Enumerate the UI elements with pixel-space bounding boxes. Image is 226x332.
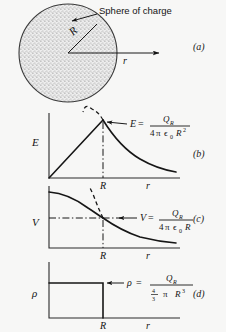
figure-uniformly-charged-sphere: Sphere of charge R r (a) E R r E = Q R	[0, 0, 226, 332]
panel-c-x-tick-R: R	[99, 250, 106, 261]
panel-b-formula-den-R: R	[175, 128, 182, 138]
panel-d-formula-equals: =	[136, 277, 142, 288]
panel-c-formula-numerator: Q	[172, 208, 179, 218]
panel-d-formula-numerator-sub: R	[172, 279, 177, 285]
sphere-of-charge-label: Sphere of charge	[99, 5, 172, 16]
panel-c-formula-den-pi: π	[165, 222, 170, 232]
panel-tag-a: (a)	[193, 41, 205, 53]
panel-c-formula-numerator-sub: R	[178, 214, 183, 220]
panel-c-formula-equals: =	[148, 212, 154, 223]
panel-b-x-axis-label: r	[146, 180, 150, 191]
panel-b-formula-den-epsilon-sub: 0	[170, 134, 173, 140]
panel-d-formula-den-R: R	[174, 289, 181, 299]
panel-d-formula-den-frac-den: 3	[152, 296, 155, 302]
distance-label-r: r	[123, 55, 127, 66]
panel-d-y-axis-label: ρ	[31, 287, 37, 299]
panel-c-formula-den-R: R	[184, 222, 191, 232]
panel-d-formula-den-R-exponent: 3	[182, 288, 185, 294]
panel-d-formula-den-frac-num: 4	[152, 288, 155, 294]
panel-tag-b: (b)	[193, 148, 205, 160]
panel-c-x-axis-label: r	[146, 250, 150, 261]
panel-d-formula-den-pi: π	[163, 289, 168, 299]
panel-c-formula-den-epsilon-sub: 0	[179, 228, 182, 234]
panel-b-formula-numerator-sub: R	[169, 120, 174, 126]
panel-b-formula-numerator: Q	[163, 114, 170, 124]
panel-d-formula-numerator: Q	[166, 273, 173, 283]
panel-b-formula-lhs: E	[129, 118, 136, 129]
panel-b-formula-den-R-exponent: 2	[183, 127, 186, 133]
panel-b-formula-equals: =	[138, 118, 144, 129]
panel-d-x-axis-label: r	[146, 320, 150, 331]
panel-d-formula-lhs: ρ	[126, 277, 132, 288]
panel-tag-d: (d)	[193, 288, 205, 300]
panel-d-x-tick-R: R	[99, 320, 106, 331]
panel-c-formula-den-epsilon: ϵ	[173, 222, 177, 232]
panel-b-formula-den-pi: π	[156, 128, 161, 138]
panel-tag-c: (c)	[193, 213, 205, 225]
panel-b-y-axis-label: E	[31, 136, 39, 148]
panel-b-x-tick-R: R	[99, 180, 106, 191]
panel-b-formula-den-epsilon: ϵ	[164, 128, 168, 138]
panel-c-formula-den-4: 4	[159, 222, 164, 232]
panel-b-formula-den-4: 4	[150, 128, 155, 138]
